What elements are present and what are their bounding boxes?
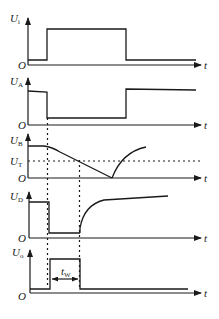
t-label-ub: t [204, 172, 208, 184]
t-label-uo: t [204, 287, 208, 299]
t-label-ui: t [204, 59, 208, 71]
origin-ub: O [18, 172, 26, 184]
panel-ui: Ui O t [10, 12, 208, 71]
label-ud: UD [10, 190, 23, 204]
waveform-ub-recharge [112, 147, 146, 178]
panel-ub: UB UT O t [10, 134, 208, 184]
t-label-ua: t [204, 119, 208, 131]
waveform-ud-low [29, 202, 80, 233]
origin-ui: O [18, 59, 26, 71]
waveform-uo [30, 259, 188, 289]
label-ua: UA [10, 75, 23, 89]
waveform-ua [28, 89, 196, 118]
panel-uo: tW Uo O t [12, 246, 208, 302]
origin-ua: O [18, 119, 26, 131]
origin-ud: O [18, 232, 26, 244]
panel-ua: UA O t [10, 75, 208, 131]
waveform-ub-discharge [28, 146, 112, 178]
label-ui: Ui [10, 12, 20, 26]
waveform-ui [28, 29, 196, 60]
label-ub: UB [10, 134, 23, 148]
panel-ud: UD O t [10, 190, 208, 244]
timing-diagram: Ui O t UA O t UB UT O t UD O t [0, 0, 219, 319]
origin-uo: O [18, 290, 26, 302]
waveform-ud-recovery [80, 196, 168, 233]
label-uo: Uo [12, 246, 24, 260]
t-label-ud: t [204, 232, 208, 244]
label-ut: UT [10, 155, 23, 169]
label-tw: tW [61, 265, 71, 279]
